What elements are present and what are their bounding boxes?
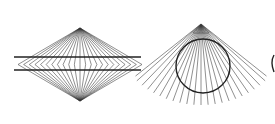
ray: [137, 24, 201, 81]
ray: [142, 24, 201, 85]
ray: [29, 28, 80, 65]
ray: [80, 28, 103, 65]
illusion-diagram: [0, 0, 275, 124]
ray: [201, 24, 265, 81]
ray: [173, 24, 201, 101]
partial-figure-edge: [272, 55, 274, 72]
ray: [80, 28, 125, 65]
ray: [148, 24, 201, 89]
ray: [201, 24, 266, 76]
circle-rays-illusion-figure: [136, 24, 267, 105]
ray: [57, 28, 80, 65]
ray: [46, 28, 80, 65]
ray: [80, 28, 131, 65]
ray: [80, 28, 114, 65]
hering-illusion-figure: [14, 28, 142, 101]
ray: [35, 28, 80, 65]
ray: [201, 24, 260, 85]
ray: [136, 24, 201, 76]
